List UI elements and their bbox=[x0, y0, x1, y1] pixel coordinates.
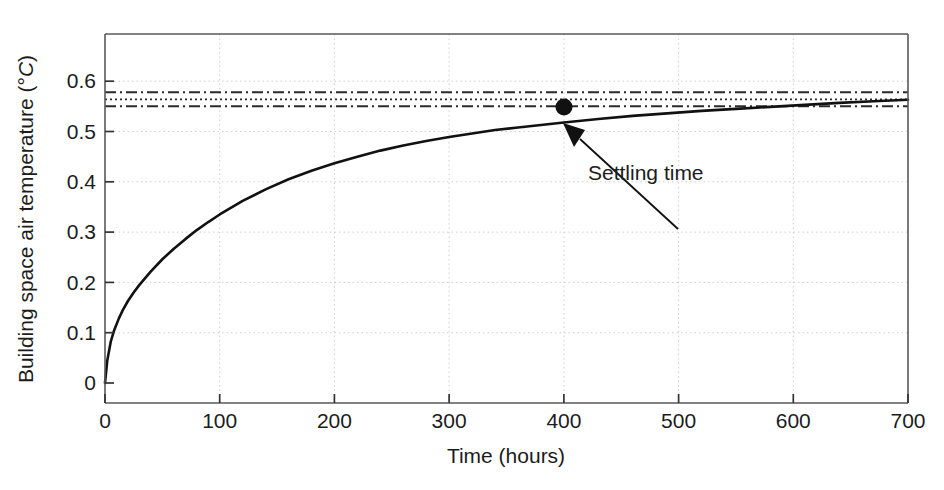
y-tick-label: 0 bbox=[84, 371, 96, 394]
y-tick-label: 0.5 bbox=[67, 120, 96, 143]
x-axis-tick-labels: 0 100 200 300 400 500 600 700 bbox=[99, 409, 925, 432]
y-axis-title: Building space air temperature (°C) bbox=[14, 55, 37, 383]
settling-time-point-marker bbox=[556, 99, 573, 116]
settling-time-annotation-label: Settling time bbox=[588, 161, 704, 184]
chart-canvas: Settling time bbox=[0, 0, 944, 490]
y-axis-title-text: Building space air temperature ( bbox=[14, 85, 37, 383]
x-tick-label: 600 bbox=[776, 409, 811, 432]
y-tick-label: 0.4 bbox=[67, 170, 97, 193]
x-axis-title: Time (hours) bbox=[447, 444, 565, 467]
x-tick-label: 500 bbox=[661, 409, 696, 432]
y-tick-label: 0.2 bbox=[67, 271, 96, 294]
x-tick-label: 200 bbox=[317, 409, 352, 432]
x-tick-label: 100 bbox=[202, 409, 237, 432]
celsius-symbol: C bbox=[14, 61, 37, 77]
chart-figure: Settling time bbox=[0, 0, 944, 490]
x-tick-label: 700 bbox=[890, 409, 925, 432]
plot-background bbox=[105, 34, 908, 403]
x-tick-label: 300 bbox=[432, 409, 467, 432]
x-tick-label: 0 bbox=[99, 409, 111, 432]
degree-symbol: ° bbox=[14, 77, 37, 85]
y-axis-title-close: ) bbox=[14, 55, 37, 62]
y-tick-label: 0.1 bbox=[67, 321, 96, 344]
x-tick-label: 400 bbox=[546, 409, 581, 432]
y-tick-label: 0.3 bbox=[67, 220, 96, 243]
y-axis-tick-labels: 0 0.1 0.2 0.3 0.4 0.5 0.6 bbox=[67, 69, 97, 394]
y-tick-label: 0.6 bbox=[67, 69, 96, 92]
